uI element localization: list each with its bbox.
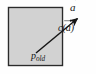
- label-vector-a: a: [70, 2, 76, 13]
- label-c-of-a-close-paren: ): [71, 22, 74, 33]
- label-p-old-subscript: old: [36, 55, 45, 63]
- vector-accent-group-a: a: [70, 2, 76, 13]
- vector-accent-group-c-arg: a: [66, 23, 71, 33]
- label-c-of-a: c( a ): [58, 23, 74, 33]
- figure-container: a c( a ) pold: [0, 0, 96, 74]
- label-vector-a-glyph: a: [70, 2, 76, 13]
- diagram-canvas: [0, 0, 96, 74]
- label-c-of-a-argument: a: [66, 23, 71, 33]
- label-p-old: pold: [31, 51, 45, 63]
